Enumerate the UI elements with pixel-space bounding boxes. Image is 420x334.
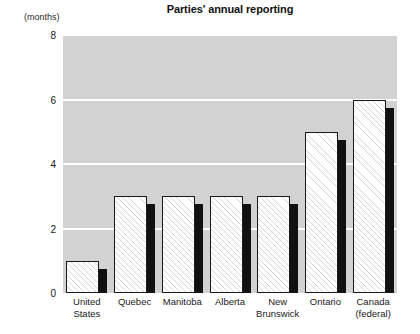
y-axis-tick-label: 2: [4, 223, 56, 234]
x-axis-label-line: Manitoba: [158, 296, 206, 308]
x-axis-tick-label: Ontario: [302, 296, 350, 308]
bar-shadow: [290, 204, 298, 293]
y-axis-tick-label: 6: [4, 94, 56, 105]
bar-shadow: [147, 204, 155, 293]
bar-shadow: [243, 204, 251, 293]
chart-title: Parties' annual reporting: [63, 3, 397, 15]
y-axis-tick-label: 4: [4, 159, 56, 170]
x-axis-tick-label: Canada(federal): [349, 296, 397, 319]
y-axis-tick-label: 0: [4, 288, 56, 299]
x-axis-label-line: United: [63, 296, 111, 308]
bar-shadow: [386, 108, 394, 294]
x-axis-label-line: Alberta: [206, 296, 254, 308]
x-axis-label-line: Canada: [349, 296, 397, 308]
x-axis-label-line: States: [63, 308, 111, 320]
x-axis-tick-label: Alberta: [206, 296, 254, 308]
chart-container: Parties' annual reporting (months) 02468…: [0, 0, 420, 334]
x-axis-label-line: (federal): [349, 308, 397, 320]
x-axis-label-line: New: [254, 296, 302, 308]
bar-shadow: [99, 269, 107, 293]
bar[interactable]: [305, 132, 338, 293]
x-axis-label-line: Quebec: [111, 296, 159, 308]
x-axis-tick-label: UnitedStates: [63, 296, 111, 319]
bar[interactable]: [66, 261, 99, 293]
x-axis-tick-label: Manitoba: [158, 296, 206, 308]
x-axis-tick-label: NewBrunswick: [254, 296, 302, 319]
bar-shadow: [195, 204, 203, 293]
bar[interactable]: [257, 196, 290, 293]
x-axis-label-line: Ontario: [302, 296, 350, 308]
bars-group: [63, 35, 397, 293]
y-axis-tick-labels: 02468: [0, 35, 56, 293]
x-axis-tick-label: Quebec: [111, 296, 159, 308]
x-axis-tick-labels: UnitedStatesQuebecManitobaAlbertaNewBrun…: [63, 296, 397, 334]
bar-shadow: [338, 140, 346, 293]
x-axis-label-line: Brunswick: [254, 308, 302, 320]
bar[interactable]: [162, 196, 195, 293]
y-axis-tick-label: 8: [4, 30, 56, 41]
y-axis-units-label: (months): [24, 12, 60, 22]
bar[interactable]: [210, 196, 243, 293]
bar[interactable]: [114, 196, 147, 293]
bar[interactable]: [353, 100, 386, 294]
